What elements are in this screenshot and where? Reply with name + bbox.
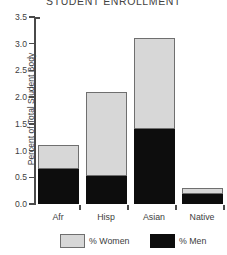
bar-native[interactable] [182, 188, 223, 204]
bar-segment-women[interactable] [134, 38, 175, 129]
bar-segment-women[interactable] [38, 145, 79, 169]
y-axis-tick-mark [29, 16, 35, 17]
y-axis-tick-mark [29, 96, 35, 97]
y-axis-tick-mark [29, 177, 35, 178]
y-axis-tick-label: 0.5 [1, 172, 27, 182]
x-axis-tick-label-asian: Asian [143, 212, 165, 222]
y-axis-tick-mark [29, 123, 35, 124]
x-axis-tick-label-afr: Afr [52, 212, 63, 222]
y-axis-tick-mark [29, 70, 35, 71]
plot-area [34, 17, 226, 204]
x-axis-tick-mark [175, 205, 177, 210]
y-axis-tick-label: 3.0 [1, 39, 27, 49]
chart-legend: % Women % Men [0, 234, 227, 255]
bar-asian[interactable] [134, 38, 175, 204]
y-axis-tick-mark [29, 203, 35, 204]
bar-segment-men[interactable] [182, 194, 223, 204]
y-axis-tick-mark [29, 150, 35, 151]
y-axis-tick-label: 0.0 [1, 199, 27, 209]
chart-figure: STUDENT ENROLLMENT Percent of Total Stud… [0, 0, 227, 255]
bar-segment-women[interactable] [86, 92, 127, 176]
y-axis-tick-label: 1.5 [1, 119, 27, 129]
x-axis-tick-mark [127, 205, 129, 210]
y-axis-tick-label: 1.0 [1, 146, 27, 156]
legend-item-men[interactable]: % Men [150, 234, 206, 248]
legend-item-women[interactable]: % Women [60, 234, 129, 248]
legend-label-women: % Women [89, 236, 129, 246]
chart-title: STUDENT ENROLLMENT [0, 0, 227, 6]
legend-swatch-women-icon [60, 234, 85, 248]
y-axis-tick-labels: 3.53.02.52.01.51.00.50.0 [0, 0, 27, 255]
legend-label-men: % Men [179, 236, 206, 246]
y-axis-tick-label: 2.0 [1, 92, 27, 102]
y-axis-tick-label: 2.5 [1, 65, 27, 75]
x-axis-tick-mark [223, 205, 225, 210]
bar-segment-men[interactable] [38, 169, 79, 204]
y-axis-tick-label: 3.5 [1, 12, 27, 22]
x-axis-tick-label-native: Native [190, 212, 215, 222]
x-axis-tick-mark [79, 205, 81, 210]
legend-swatch-men-icon [150, 234, 175, 248]
bar-hisp[interactable] [86, 92, 127, 204]
bar-segment-men[interactable] [134, 129, 175, 204]
y-axis-tick-mark [29, 43, 35, 44]
bar-segment-men[interactable] [86, 176, 127, 204]
bar-afr[interactable] [38, 145, 79, 204]
x-axis-tick-label-hisp: Hisp [97, 212, 115, 222]
